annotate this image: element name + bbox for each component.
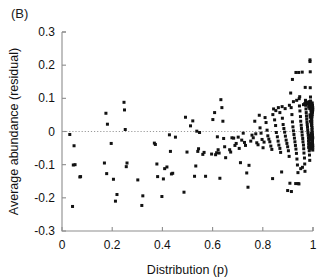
x-tick-label: 1 bbox=[310, 238, 317, 252]
data-point bbox=[298, 109, 301, 112]
data-point bbox=[277, 106, 280, 109]
data-point bbox=[249, 140, 252, 143]
data-point bbox=[283, 131, 286, 134]
data-point bbox=[288, 104, 291, 107]
data-point bbox=[308, 58, 311, 61]
data-point bbox=[123, 108, 126, 111]
data-point bbox=[303, 157, 306, 160]
data-point bbox=[275, 131, 278, 134]
data-point bbox=[305, 114, 308, 117]
data-point bbox=[263, 141, 266, 144]
data-point bbox=[304, 107, 307, 110]
data-point bbox=[297, 182, 300, 185]
data-point bbox=[126, 162, 129, 165]
data-point bbox=[305, 117, 308, 120]
data-point bbox=[193, 175, 196, 178]
data-point bbox=[288, 155, 291, 158]
data-point bbox=[165, 165, 168, 168]
data-point bbox=[191, 119, 194, 122]
data-point bbox=[169, 150, 172, 153]
data-point bbox=[246, 186, 249, 189]
data-point bbox=[310, 124, 313, 127]
data-point bbox=[309, 96, 312, 99]
data-point bbox=[300, 124, 303, 127]
data-point bbox=[264, 116, 267, 119]
data-point bbox=[306, 128, 309, 131]
data-point bbox=[218, 152, 221, 155]
data-point bbox=[232, 137, 235, 140]
data-point bbox=[253, 120, 256, 123]
data-point bbox=[277, 144, 280, 147]
data-point bbox=[309, 100, 312, 103]
x-axis-title: Distribution (p) bbox=[147, 263, 228, 277]
data-point bbox=[211, 118, 214, 121]
data-point bbox=[124, 128, 127, 131]
data-point bbox=[306, 131, 309, 134]
data-point bbox=[304, 86, 307, 89]
data-point bbox=[260, 132, 263, 135]
data-point bbox=[68, 133, 71, 136]
data-point bbox=[290, 190, 293, 193]
data-point bbox=[182, 191, 185, 194]
data-point bbox=[123, 101, 126, 104]
data-point bbox=[282, 123, 285, 126]
data-point bbox=[267, 138, 270, 141]
data-point bbox=[242, 132, 245, 135]
data-point bbox=[285, 139, 288, 142]
data-point bbox=[125, 165, 128, 168]
y-tick-label: 0 bbox=[48, 125, 55, 139]
data-point bbox=[278, 147, 281, 150]
data-point bbox=[279, 151, 282, 154]
data-point bbox=[271, 113, 274, 116]
data-point bbox=[309, 86, 312, 89]
data-point bbox=[189, 124, 192, 127]
data-point bbox=[297, 71, 300, 74]
data-point bbox=[273, 118, 276, 121]
data-point bbox=[306, 123, 309, 126]
data-point bbox=[238, 147, 241, 150]
data-point bbox=[292, 133, 295, 136]
data-point bbox=[221, 120, 224, 123]
data-point bbox=[115, 193, 118, 196]
data-point bbox=[278, 111, 281, 114]
data-point bbox=[292, 129, 295, 132]
data-point bbox=[300, 127, 303, 130]
y-tick-label: -0.2 bbox=[34, 191, 55, 205]
data-point bbox=[240, 139, 243, 142]
y-tick-label: 0.3 bbox=[38, 25, 55, 39]
data-point bbox=[285, 142, 288, 145]
data-point bbox=[105, 172, 108, 175]
data-point bbox=[298, 95, 301, 98]
data-point bbox=[281, 117, 284, 120]
data-point bbox=[308, 137, 311, 140]
data-point bbox=[229, 151, 232, 154]
y-tick-label: -0.3 bbox=[34, 224, 55, 238]
data-point bbox=[248, 164, 251, 167]
data-point bbox=[265, 121, 268, 124]
data-point bbox=[186, 151, 189, 154]
data-point bbox=[291, 120, 294, 123]
data-point bbox=[110, 142, 113, 145]
data-point bbox=[294, 182, 297, 185]
data-point bbox=[299, 115, 302, 118]
data-point bbox=[305, 120, 308, 123]
data-point bbox=[114, 200, 117, 203]
data-point bbox=[308, 159, 311, 162]
data-point bbox=[280, 170, 283, 173]
data-point bbox=[261, 138, 264, 141]
data-point bbox=[294, 144, 297, 147]
data-point bbox=[302, 152, 305, 155]
data-point bbox=[235, 142, 238, 145]
data-point bbox=[154, 143, 157, 146]
data-point bbox=[310, 107, 313, 110]
data-point bbox=[106, 123, 109, 126]
data-point bbox=[299, 167, 302, 170]
data-point bbox=[295, 99, 298, 102]
data-point bbox=[210, 153, 213, 156]
data-point bbox=[289, 92, 292, 95]
data-point bbox=[184, 116, 187, 119]
x-tick-label: 0.2 bbox=[104, 238, 121, 252]
data-point bbox=[296, 171, 299, 174]
data-point bbox=[302, 144, 305, 147]
data-point bbox=[301, 71, 304, 74]
